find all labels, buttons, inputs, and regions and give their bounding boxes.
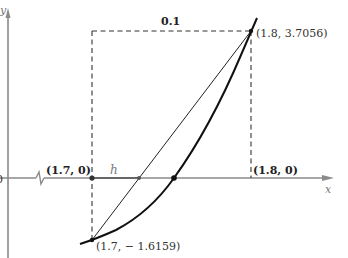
y-axis-label: y [0, 4, 7, 17]
axis-break-icon [36, 172, 44, 184]
label-right-axis-point: (1.8, 0) [253, 164, 298, 177]
diagram-canvas: y x 0 0.1 (1.7, 0) [0, 0, 348, 258]
label-lower-left-point: (1.7, − 1.6159) [96, 240, 180, 253]
point-curve-root [171, 175, 177, 181]
origin-label: 0 [0, 173, 3, 186]
interval-width-label: 0.1 [161, 15, 180, 28]
x-axis-arrow-icon [322, 175, 334, 181]
point-upper-right [249, 29, 253, 33]
y-axis-arrow-icon [6, 8, 11, 18]
secant-line [92, 31, 251, 240]
point-secant-root [137, 176, 141, 180]
function-curve [80, 18, 257, 244]
y-axis: y [0, 4, 11, 258]
label-upper-right-point: (1.8, 3.7056) [256, 27, 328, 40]
label-left-axis-point: (1.7, 0) [46, 164, 91, 177]
point-lower-left [90, 238, 94, 242]
step-label: h [110, 163, 118, 177]
secant-method-diagram: y x 0 0.1 (1.7, 0) [0, 0, 348, 258]
x-axis-label: x [325, 183, 332, 196]
